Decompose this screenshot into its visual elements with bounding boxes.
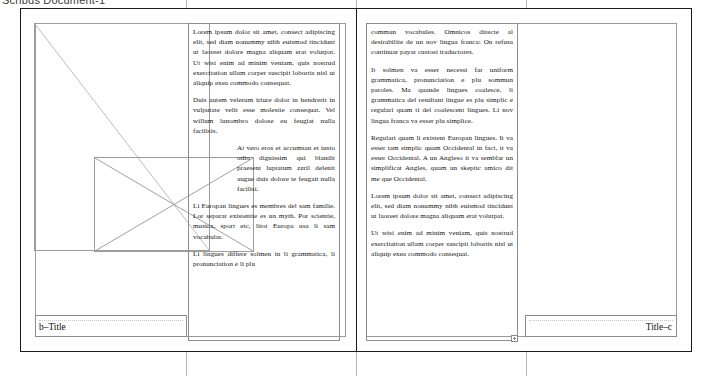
paragraph: Lorem ipsum dolor sit amet, consect adip…	[371, 191, 513, 222]
paragraph: Ut wisi enim ad minim veniam, quis nostr…	[371, 228, 513, 259]
paragraph: Li lingues differe solmen in li grammati…	[193, 249, 335, 269]
paragraph: Lorem ipsum dolor sit amet, consect adip…	[193, 27, 335, 88]
page-left[interactable]: Lorem ipsum dolor sit amet, consect adip…	[21, 9, 356, 351]
text-frame-story-b[interactable]: commun vocabules. Omnicos directe al des…	[366, 23, 518, 341]
paragraph: At vero eros et accumsan et iusto odio d…	[193, 143, 335, 194]
text-frame-story-a[interactable]: Lorem ipsum dolor sit amet, consect adip…	[188, 23, 340, 341]
footer-guide-line	[529, 320, 673, 321]
frame-link-anchor-icon[interactable]	[511, 335, 518, 342]
paragraph: Duis autem velerum iriure dolor in hendr…	[193, 95, 335, 136]
footer-label-left: b–Title	[39, 322, 66, 333]
footer-label-right: Title–c	[646, 322, 672, 333]
footer-frame-left[interactable]: b–Title	[35, 315, 187, 337]
app-title-text: Scribus Document-1	[2, 0, 105, 6]
paragraph: It solmen va esser necessi far uniform g…	[371, 65, 513, 126]
footer-guide-line	[39, 320, 183, 321]
paragraph: Regulari quam li existent Europan lingue…	[371, 133, 513, 184]
page-right[interactable]: commun vocabules. Omnicos directe al des…	[356, 9, 691, 351]
paragraph: commun vocabules. Omnicos directe al des…	[371, 27, 513, 58]
footer-frame-right[interactable]: Title–c	[525, 315, 677, 337]
page-spread[interactable]: Lorem ipsum dolor sit amet, consect adip…	[20, 8, 692, 352]
app-title-strip: Scribus Document-1	[0, 0, 715, 7]
paragraph: Li Europan lingues es membres del sam fa…	[193, 201, 335, 242]
document-canvas[interactable]: Scribus Document-1	[0, 0, 715, 376]
